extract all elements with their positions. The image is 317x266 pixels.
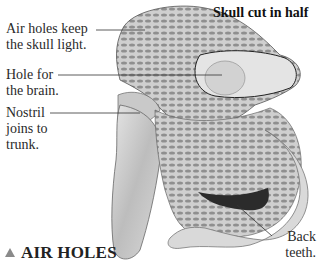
- label-nostril: Nostril joins to trunk.: [6, 105, 48, 153]
- label-back-teeth: Back teeth.: [272, 229, 316, 261]
- section-heading: AIR HOLES: [5, 243, 117, 263]
- triangle-up-icon: [5, 248, 15, 257]
- label-air-holes: Air holes keep the skull light.: [6, 21, 88, 53]
- label-brain-hole: Hole for the brain.: [6, 67, 59, 99]
- section-heading-text: AIR HOLES: [21, 243, 117, 262]
- figure-title: Skull cut in half: [213, 5, 308, 21]
